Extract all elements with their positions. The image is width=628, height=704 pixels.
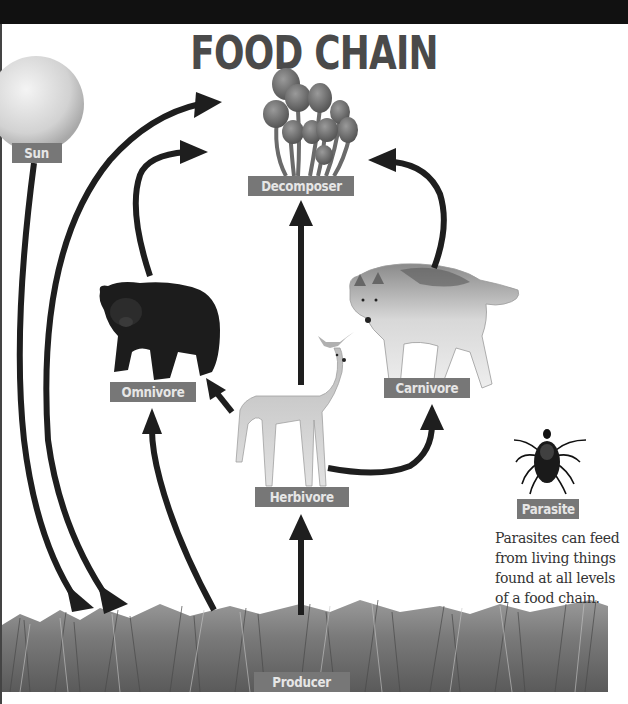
arrow-herbivore-to-omnivore [216,392,232,412]
tick-icon [514,429,586,494]
label-sun: Sun [12,143,62,163]
mushroom-icon [263,68,358,176]
arrow-omnivore-to-decomposer [136,152,186,276]
label-herbivore-text: Herbivore [270,487,334,507]
deer-icon [236,332,354,486]
label-carnivore-text: Carnivore [396,378,459,398]
bear-icon [100,282,221,380]
label-omnivore: Omnivore [110,382,196,402]
label-herbivore: Herbivore [255,487,349,507]
label-decomposer-text: Decomposer [261,176,342,196]
wolf-icon [350,264,519,388]
arrow-producer-to-omnivore [152,430,214,610]
label-decomposer: Decomposer [248,176,354,196]
parasite-caption: Parasites can feed from living things fo… [495,528,625,608]
label-producer-text: Producer [273,672,332,692]
sun-icon [0,56,84,152]
arrow-herbivore-to-carnivore [328,424,432,473]
arrow-carnivore-to-decomposer [394,162,444,268]
label-producer: Producer [254,672,350,692]
label-parasite-text: Parasite [522,499,575,519]
arrows [20,104,444,615]
label-carnivore: Carnivore [384,378,470,398]
label-parasite: Parasite [517,499,579,519]
label-sun-text: Sun [25,143,50,163]
label-omnivore-text: Omnivore [122,382,185,402]
